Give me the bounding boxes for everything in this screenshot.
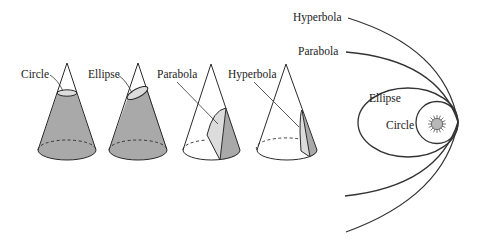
cone-hyperbola: Hyperbola	[228, 64, 317, 160]
cone-circle: Circle	[21, 63, 96, 160]
cone-label-circle: Circle	[21, 68, 49, 80]
orbit-label-parabola: Parabola	[298, 45, 338, 57]
conic-sections-diagram: Circle Ellipse Parabola Hype	[0, 0, 479, 244]
cone-label-hyperbola: Hyperbola	[228, 68, 277, 81]
orbit-family: Hyperbola Parabola Ellipse Circle	[293, 11, 458, 232]
cone-label-parabola: Parabola	[157, 68, 197, 80]
sun-icon	[428, 115, 446, 133]
orbit-label-ellipse: Ellipse	[369, 92, 401, 105]
orbit-label-circle: Circle	[386, 119, 414, 131]
cone-ellipse: Ellipse	[88, 63, 167, 160]
cone-label-ellipse: Ellipse	[88, 68, 120, 81]
orbit-label-hyperbola: Hyperbola	[293, 11, 342, 24]
